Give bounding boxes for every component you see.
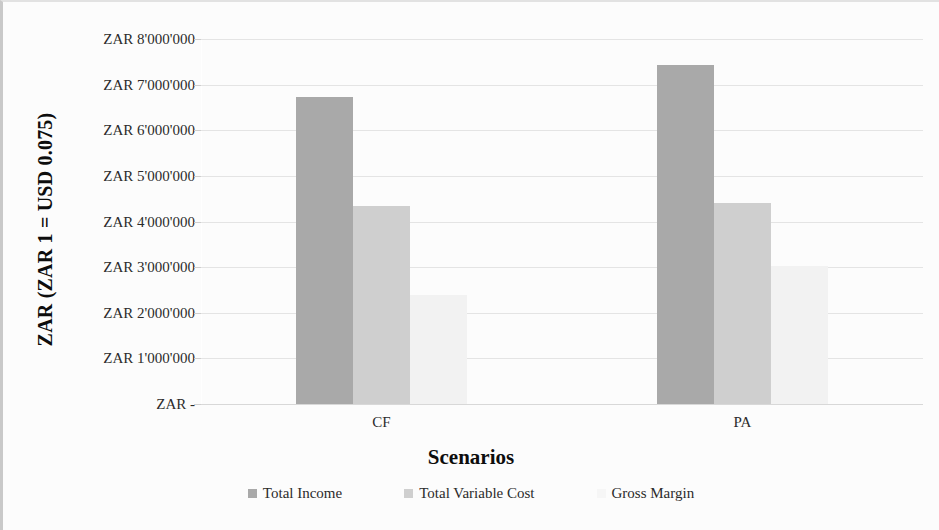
bar-cf-total-income	[296, 97, 353, 404]
bar-pa-gross-margin	[771, 266, 828, 404]
bar-pa-total-income	[657, 65, 714, 404]
legend-label: Total Income	[263, 485, 342, 502]
chart-legend: Total IncomeTotal Variable CostGross Mar…	[3, 485, 939, 502]
bar-chart-figure: ZAR (ZAR 1 = USD 0.075) ZAR -ZAR 1'000'0…	[3, 2, 939, 530]
y-axis-tick-mark	[194, 313, 201, 314]
plot-area	[201, 39, 923, 404]
gridline	[201, 404, 923, 405]
y-axis-tick-mark	[194, 358, 201, 359]
y-axis-tick-mark	[194, 130, 201, 131]
y-axis-tick-label: ZAR 1'000'000	[103, 350, 195, 367]
legend-item-gross-margin[interactable]: Gross Margin	[597, 485, 695, 502]
y-axis-tick-label: ZAR -	[156, 396, 195, 413]
gridline	[201, 85, 923, 86]
x-axis-title: Scenarios	[3, 445, 939, 470]
y-axis-tick-mark	[194, 176, 201, 177]
y-axis-tick-label: ZAR 7'000'000	[103, 76, 195, 93]
legend-swatch-icon	[404, 489, 413, 498]
legend-label: Total Variable Cost	[419, 485, 534, 502]
bar-pa-total-variable-cost	[714, 203, 771, 404]
legend-label: Gross Margin	[612, 485, 695, 502]
bar-cf-total-variable-cost	[353, 206, 410, 404]
y-axis-tick-mark	[194, 39, 201, 40]
legend-item-total-income[interactable]: Total Income	[248, 485, 342, 502]
y-axis-tick-label: ZAR 5'000'000	[103, 167, 195, 184]
bar-cf-gross-margin	[410, 295, 467, 405]
x-axis-category-label-pa: PA	[734, 414, 752, 431]
y-axis-tick-label: ZAR 8'000'000	[103, 31, 195, 48]
y-axis-tick-label: ZAR 3'000'000	[103, 259, 195, 276]
gridline	[201, 39, 923, 40]
scanned-page: ZAR (ZAR 1 = USD 0.075) ZAR -ZAR 1'000'0…	[0, 0, 939, 530]
y-axis-tick-label: ZAR 4'000'000	[103, 213, 195, 230]
y-axis-tick-mark	[194, 267, 201, 268]
y-axis-tick-mark	[194, 404, 201, 405]
y-axis-tick-label: ZAR 2'000'000	[103, 304, 195, 321]
legend-item-total-variable-cost[interactable]: Total Variable Cost	[404, 485, 534, 502]
y-axis-tick-mark	[194, 85, 201, 86]
x-axis-category-label-cf: CF	[372, 414, 390, 431]
y-axis-tick-label: ZAR 6'000'000	[103, 122, 195, 139]
legend-swatch-icon	[597, 489, 606, 498]
legend-swatch-icon	[248, 489, 257, 498]
y-axis-tick-mark	[194, 222, 201, 223]
